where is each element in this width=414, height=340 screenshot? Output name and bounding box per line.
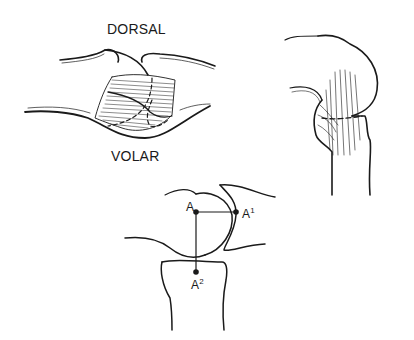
- point-a1-sup: 1: [250, 206, 255, 215]
- point-a2-base: A: [191, 278, 199, 292]
- dorsal-label: DORSAL: [107, 21, 166, 37]
- point-a2-marker: [193, 269, 199, 275]
- point-a1-base: A: [242, 207, 250, 221]
- point-a1-marker: [233, 209, 239, 215]
- point-a-label: A: [186, 200, 194, 214]
- point-a1-label: A1: [242, 206, 255, 221]
- point-a2-label: A2: [191, 277, 204, 292]
- right-joint-drawing: [285, 35, 377, 195]
- point-a2-sup: 2: [199, 277, 204, 286]
- anatomical-diagram: [0, 0, 414, 340]
- volar-label: VOLAR: [111, 148, 159, 164]
- left-joint-drawing: [25, 50, 215, 138]
